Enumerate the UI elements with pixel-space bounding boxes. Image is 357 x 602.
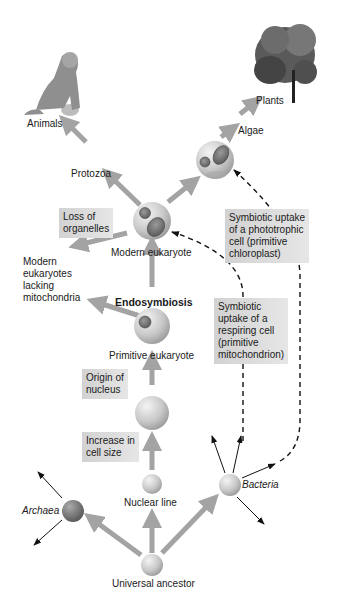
bacteria-label: Bacteria [242,479,279,491]
algae-cell [196,141,234,179]
endosymbiosis-label: Endosymbiosis [115,296,193,308]
modern-eukaryote-cell [133,202,171,240]
lacking-line-4: mitochondria [23,292,80,304]
plants-label: Plants [256,95,284,107]
animals-label: Animals [27,118,63,130]
resp-line-5: mitochondrion) [218,349,284,361]
loss-line-2: organelles [63,223,109,235]
large-cell [135,396,169,430]
bacteria-cell [219,474,241,496]
resp-line-3: respiring cell [218,325,284,337]
lacking-line-1: Modern [23,256,80,268]
phototrophic-uptake-box: Symbiotic uptake of a phototrophic cell … [225,209,309,263]
resp-line-4: (primitive [218,337,284,349]
protozoa-label: Protozoa [71,168,111,180]
photo-line-1: Symbiotic uptake [229,212,305,224]
primitive-eukaryote-cell [134,308,170,344]
origin-of-nucleus-box: Origin of nucleus [82,369,128,399]
photo-line-3: cell (primitive [229,236,305,248]
modern-lacking-mito-label: Modern eukaryotes lacking mitochondria [23,256,80,304]
increase-cell-size-box: Increase in cell size [82,432,139,462]
universal-ancestor-cell [141,554,163,576]
archaea-label: Archaea [22,505,59,517]
lacking-line-2: eukaryotes [23,268,80,280]
archaea-cell [62,500,84,522]
lacking-line-3: lacking [23,280,80,292]
dog-image [24,52,80,116]
loss-line-1: Loss of [63,211,109,223]
universal-ancestor-label: Universal ancestor [112,578,195,590]
algae-label: Algae [238,125,264,137]
tree-image [254,24,317,103]
photo-line-4: chloroplast) [229,248,305,260]
origin-line-2: nucleus [86,384,124,396]
modern-eukaryote-label: Modern eukaryote [111,247,192,259]
nuclear-line-label: Nuclear line [124,497,177,509]
respiring-uptake-box: Symbiotic uptake of a respiring cell (pr… [214,298,288,364]
resp-line-1: Symbiotic [218,301,284,313]
primitive-eukaryote-label: Primitive eukaryote [109,350,194,362]
increase-line-1: Increase in [86,435,135,447]
nuclear-line-cell [142,474,162,494]
origin-line-1: Origin of [86,372,124,384]
resp-line-2: uptake of a [218,313,284,325]
photo-line-2: of a phototrophic [229,224,305,236]
increase-line-2: cell size [86,447,135,459]
loss-of-organelles-box: Loss of organelles [59,208,113,238]
